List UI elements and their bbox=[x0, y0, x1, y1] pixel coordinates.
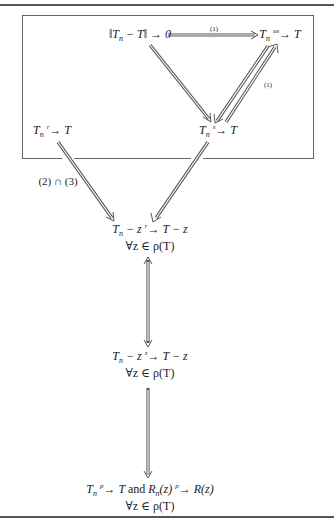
arrows-layer bbox=[0, 0, 334, 525]
shift-s-quantifier: ∀z ∈ ρ(T) bbox=[112, 366, 187, 381]
res-sub: n bbox=[93, 489, 97, 498]
shift-s-arrow-label: s bbox=[145, 349, 148, 357]
s-arrow: → bbox=[215, 123, 227, 137]
shift-r-quantifier: ∀z ∈ ρ(T) bbox=[112, 239, 187, 254]
node-norm-convergence: ‖Tn − T‖ → 0 bbox=[109, 27, 171, 43]
shift-r-sub: n bbox=[119, 229, 123, 238]
norm-rest: − T‖ → 0 bbox=[123, 27, 171, 41]
node-us-convergence: Tn us→ T bbox=[259, 27, 301, 44]
r-T1: T bbox=[33, 123, 40, 137]
res-and: and bbox=[128, 482, 145, 496]
shift-r-arrow: → bbox=[147, 222, 159, 236]
edge-label-s-to-us: (1) bbox=[264, 81, 272, 89]
shift-s-arrow: → bbox=[147, 349, 159, 363]
us-T1: T bbox=[259, 27, 266, 41]
resolvent-line: Tn p→ T and Rn(z) p→ R(z) bbox=[86, 482, 214, 499]
r-T2: T bbox=[61, 123, 71, 137]
shift-s-mid: − z bbox=[123, 349, 145, 363]
res-Rsub: n bbox=[156, 489, 160, 498]
res-T1: T bbox=[86, 482, 93, 496]
s-T2: T bbox=[227, 123, 237, 137]
node-r-convergence: Tn r→ T bbox=[33, 123, 71, 140]
s-T1: T bbox=[199, 123, 206, 137]
resolvent-quantifier: ∀z ∈ ρ(T) bbox=[86, 499, 214, 514]
shift-s-line: Tn − z s→ T − z bbox=[112, 349, 187, 366]
shift-r-T2: T − z bbox=[159, 222, 187, 236]
us-arrow: → bbox=[279, 27, 291, 41]
node-shift-r: Tn − z r→ T − z ∀z ∈ ρ(T) bbox=[112, 222, 187, 254]
res-R1rest: (z) bbox=[160, 482, 176, 496]
shift-r-arrow-label: r bbox=[145, 222, 148, 230]
res-R2: R(z) bbox=[191, 482, 214, 496]
norm-sub: n bbox=[119, 34, 123, 43]
shift-r-mid: − z bbox=[123, 222, 145, 236]
node-s-convergence: Tn s→ T bbox=[199, 123, 237, 140]
shift-r-line: Tn − z r→ T − z bbox=[112, 222, 187, 239]
us-T2: T bbox=[291, 27, 301, 41]
shift-s-T1: T bbox=[112, 349, 119, 363]
shift-r-T1: T bbox=[112, 222, 119, 236]
r-arrow: → bbox=[49, 123, 61, 137]
res-arrow-label: p bbox=[100, 482, 104, 490]
node-shift-s: Tn − z s→ T − z ∀z ∈ ρ(T) bbox=[112, 349, 187, 381]
res-arrow: → bbox=[103, 482, 115, 496]
res-R1: R bbox=[145, 482, 155, 496]
res-arrow2: → bbox=[179, 482, 191, 496]
edge-label-norm-to-us: (1) bbox=[210, 25, 218, 33]
shift-s-T2: T − z bbox=[159, 349, 187, 363]
node-resolvent: Tn p→ T and Rn(z) p→ R(z) ∀z ∈ ρ(T) bbox=[86, 482, 214, 514]
shift-s-sub: n bbox=[119, 356, 123, 365]
us-sub: n bbox=[266, 34, 270, 43]
res-arrow-label2: p bbox=[175, 482, 179, 490]
r-sub: n bbox=[40, 130, 44, 139]
res-T2: T bbox=[115, 482, 127, 496]
us-arrow-label: us bbox=[273, 27, 279, 35]
s-sub: n bbox=[206, 130, 210, 139]
norm-lhs: ‖T bbox=[109, 27, 119, 41]
edge-label-r-to-shift: (2) ∩ (3) bbox=[38, 175, 77, 187]
